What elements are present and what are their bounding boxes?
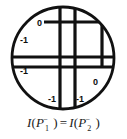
label-top-left-zero: 0 <box>37 19 42 28</box>
diagram-area: 0 -1 -1 0 -1 -1 <box>0 0 127 117</box>
caption-right-close-paren: ) <box>95 115 100 130</box>
caption-left-subscript: 1 <box>45 124 49 133</box>
figure-root: 0 -1 -1 0 -1 -1 I(P−1)=I(P−2) <box>0 0 127 139</box>
caption-right-subscript: 2 <box>87 124 91 133</box>
caption-equals-sign: = <box>58 115 70 130</box>
label-upper-left-minus-one: -1 <box>20 36 28 45</box>
disk-grid-diagram <box>0 0 127 117</box>
label-bottom-left-minus-one: -1 <box>48 95 56 104</box>
label-bottom-right-minus-one: -1 <box>76 95 84 104</box>
label-right-zero: 0 <box>93 78 98 87</box>
figure-caption: I(P−1)=I(P−2) <box>0 115 127 133</box>
label-lower-left-minus-one: -1 <box>20 67 28 76</box>
caption-left-superscript: − <box>43 115 48 124</box>
grid-line-group <box>0 0 127 117</box>
caption-right-superscript: − <box>85 115 90 124</box>
